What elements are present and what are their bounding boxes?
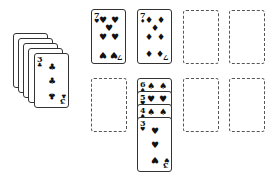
card-rank: 3 <box>163 162 169 170</box>
empty-slot-bottom-4[interactable] <box>229 78 265 132</box>
empty-slot-top-4[interactable] <box>229 10 265 64</box>
club-icon: ♣ <box>48 63 56 72</box>
card-rank: 3 <box>60 98 66 106</box>
diamond-icon: ♦ <box>157 33 165 42</box>
heart-icon: ♥ <box>99 33 107 42</box>
card-rank: 7 <box>117 54 123 62</box>
cascade-card-3-hearts[interactable]: 3 ♥ ♥ ♥ ♥ ♥ 3 <box>137 117 172 172</box>
spade-icon: ♠ <box>159 82 167 91</box>
club-icon: ♣ <box>37 62 42 68</box>
spade-icon: ♠ <box>147 108 155 117</box>
diamond-icon: ♦ <box>145 50 153 59</box>
empty-slot-top-3[interactable] <box>183 10 219 64</box>
heart-icon: ♥ <box>111 33 119 42</box>
empty-slot-bottom-3[interactable] <box>183 78 219 132</box>
foundation-card-7-diamonds[interactable]: 7 ♦ ♦ ♦ ♦ ♦ ♦ ♦ ♦ 7 <box>137 9 172 64</box>
heart-icon: ♥ <box>159 95 167 104</box>
club-icon: ♣ <box>48 77 56 86</box>
heart-icon: ♥ <box>147 95 155 104</box>
spade-icon: ♠ <box>147 82 155 91</box>
club-icon: ♣ <box>48 91 56 100</box>
heart-icon: ♥ <box>99 50 107 59</box>
heart-icon: ♥ <box>151 127 159 136</box>
foundation-card-7-hearts[interactable]: 7 ♥ ♥ ♥ ♥ ♥ ♥ ♥ ♥ 7 <box>91 9 126 64</box>
heart-icon: ♥ <box>151 141 159 150</box>
card-rank: 7 <box>163 54 169 62</box>
stock-top-card[interactable]: 3 ♣ ♣ ♣ ♣ ♣ 3 <box>34 53 69 108</box>
diamond-icon: ♦ <box>145 33 153 42</box>
heart-icon: ♥ <box>151 155 159 164</box>
heart-icon: ♥ <box>140 126 145 132</box>
empty-slot-bottom-1[interactable] <box>91 78 127 132</box>
spade-icon: ♠ <box>159 108 167 117</box>
